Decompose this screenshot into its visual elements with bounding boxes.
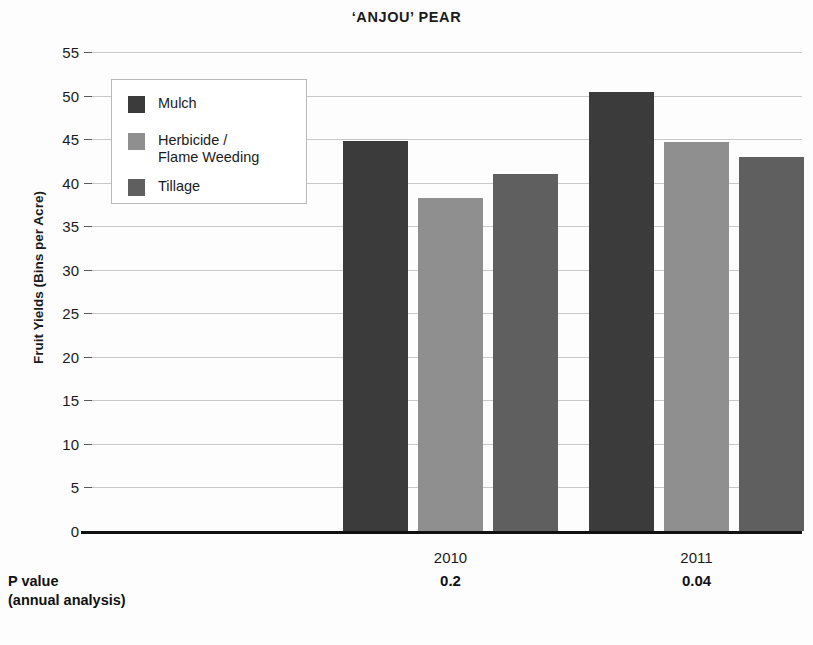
bar <box>343 141 408 531</box>
y-axis-tick <box>84 183 92 184</box>
legend-item: Herbicide / Flame Weeding <box>128 132 259 166</box>
bar <box>739 157 804 531</box>
y-axis-tick <box>84 52 92 53</box>
x-axis-group-label: 2011 <box>680 549 712 566</box>
legend-swatch-icon <box>128 133 145 150</box>
chart-title: ‘ANJOU’ PEAR <box>0 9 813 25</box>
y-axis-tick-label: 40 <box>62 174 79 191</box>
y-axis-tick <box>84 226 92 227</box>
x-axis-line <box>81 531 802 534</box>
legend-label: Tillage <box>158 178 200 195</box>
y-axis-tick <box>84 313 92 314</box>
y-axis-tick-label: 35 <box>62 218 79 235</box>
legend-label: Herbicide / Flame Weeding <box>158 132 259 166</box>
legend-item: Tillage <box>128 178 200 196</box>
legend-swatch-icon <box>128 96 145 113</box>
y-axis-tick-label: 20 <box>62 348 79 365</box>
y-axis-tick <box>84 444 92 445</box>
y-axis-title: Fruit Yields (Bins per Acre) <box>31 128 46 428</box>
y-axis-tick-label: 50 <box>62 87 79 104</box>
y-axis-tick-label: 15 <box>62 392 79 409</box>
x-axis-group-label: 2010 <box>434 549 467 566</box>
y-axis-tick <box>84 96 92 97</box>
y-axis-tick-label: 0 <box>71 523 79 540</box>
gridline <box>92 52 802 53</box>
bar <box>589 92 654 531</box>
chart-figure: ‘ANJOU’ PEAR Fruit Yields (Bins per Acre… <box>0 0 813 645</box>
legend-item: Mulch <box>128 95 197 113</box>
y-axis-tick <box>84 139 92 140</box>
legend-swatch-icon <box>128 179 145 196</box>
bar <box>418 198 483 531</box>
y-axis-tick <box>84 487 92 488</box>
chart-legend: MulchHerbicide / Flame WeedingTillage <box>111 79 307 204</box>
y-axis-tick <box>84 270 92 271</box>
y-axis-tick-label: 10 <box>62 435 79 452</box>
y-axis-tick-label: 5 <box>71 479 79 496</box>
p-value-caption: P value (annual analysis) <box>8 572 126 610</box>
p-value: 0.04 <box>682 572 711 589</box>
legend-label: Mulch <box>158 95 197 112</box>
bar <box>664 142 729 531</box>
y-axis-tick-label: 55 <box>62 44 79 61</box>
y-axis-tick-label: 25 <box>62 305 79 322</box>
y-axis-tick-label: 30 <box>62 261 79 278</box>
y-axis-tick <box>84 400 92 401</box>
bar <box>493 174 558 531</box>
y-axis-tick-label: 45 <box>62 131 79 148</box>
y-axis-tick <box>84 357 92 358</box>
p-value: 0.2 <box>440 572 461 589</box>
